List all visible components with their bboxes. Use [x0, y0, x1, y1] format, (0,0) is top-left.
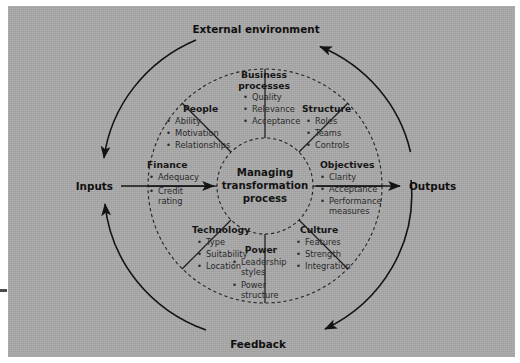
figure-canvas: External environment Feedback Inputs Out… — [0, 0, 520, 363]
bullet-icon: • — [306, 116, 311, 126]
label-outputs: Outputs — [409, 180, 456, 192]
segment-finance[interactable]: Finance • Adequacy • Credit rating — [147, 159, 199, 206]
segment-item-type: Type — [205, 237, 225, 247]
segment-title-business-processes-line1: Business — [241, 69, 287, 80]
bullet-icon: • — [320, 184, 325, 194]
label-inputs: Inputs — [76, 180, 113, 192]
segment-item-performance-cont: measures — [329, 206, 370, 216]
bullet-icon: • — [197, 237, 202, 247]
transformation-process-diagram: External environment Feedback Inputs Out… — [0, 0, 520, 363]
bullet-icon: • — [320, 196, 325, 206]
segment-title-technology: Technology — [192, 224, 250, 235]
segment-item-performance: Performance — [329, 196, 382, 206]
segment-title-business-processes-line2: processes — [238, 80, 290, 91]
hub-label: Managing transformation process — [222, 167, 309, 204]
segment-item-credit-rating-cont: rating — [158, 196, 183, 206]
segment-item-adequacy: Adequacy — [158, 172, 199, 182]
segment-title-culture: Culture — [300, 224, 338, 235]
hub-line-1: Managing — [237, 167, 293, 178]
segment-culture[interactable]: Culture • Features • Strength • Integrat… — [296, 224, 351, 271]
segment-people[interactable]: People • Ability • Motivation • Relation… — [166, 103, 230, 150]
segment-title-objectives: Objectives — [320, 159, 375, 170]
segment-business-processes[interactable]: Business processes • Quality • Relevance… — [238, 69, 300, 126]
segment-item-acceptance: Acceptance — [252, 116, 300, 126]
bullet-icon: • — [232, 280, 237, 290]
segment-item-features: Features — [305, 237, 341, 247]
label-feedback: Feedback — [230, 338, 287, 350]
segment-title-structure: Structure — [302, 103, 351, 114]
segment-item-leadership-styles: Leadership — [241, 257, 287, 267]
bullet-icon: • — [149, 186, 154, 196]
bullet-icon: • — [243, 116, 248, 126]
arc-feedback-to-inputs — [105, 204, 206, 330]
segment-title-power: Power — [245, 244, 278, 255]
bullet-icon: • — [197, 249, 202, 259]
segment-item-integration: Integration — [305, 261, 351, 271]
bullet-icon: • — [166, 116, 171, 126]
bullet-icon: • — [320, 172, 325, 182]
segment-item-motivation: Motivation — [175, 128, 219, 138]
segment-item-clarity: Clarity — [329, 172, 356, 182]
segment-item-leadership-styles-cont: styles — [241, 267, 265, 277]
segment-item-ability: Ability — [175, 116, 201, 126]
segment-item-quality: Quality — [252, 92, 282, 102]
segment-item-relationships: Relationships — [175, 140, 230, 150]
bullet-icon: • — [296, 237, 301, 247]
segment-item-location: Location — [206, 261, 241, 271]
segment-item-acceptance: Acceptance — [329, 184, 377, 194]
segment-item-power-structure-cont: structure — [241, 290, 279, 300]
segment-objectives[interactable]: Objectives • Clarity • Acceptance • Perf… — [320, 159, 382, 216]
bullet-icon: • — [306, 140, 311, 150]
bullet-icon: • — [243, 92, 248, 102]
segment-title-people: People — [183, 103, 218, 114]
bullet-icon: • — [243, 104, 248, 114]
segment-item-strength: Strength — [305, 249, 341, 259]
hub-line-2: transformation — [222, 180, 309, 191]
bullet-icon: • — [197, 261, 202, 271]
bullet-icon: • — [306, 128, 311, 138]
segment-item-suitability: Suitability — [206, 249, 248, 259]
segment-item-credit-rating: Credit — [158, 186, 184, 196]
label-external-environment: External environment — [192, 23, 319, 35]
bullet-icon: • — [166, 140, 171, 150]
segment-title-finance: Finance — [147, 159, 187, 170]
segment-item-power-structure: Power — [241, 280, 267, 290]
segment-item-controls: Controls — [315, 140, 349, 150]
bullet-icon: • — [166, 128, 171, 138]
bullet-icon: • — [296, 261, 301, 271]
segment-structure[interactable]: Structure • Roles • Teams • Controls — [302, 103, 351, 150]
bullet-icon: • — [296, 249, 301, 259]
bullet-icon: • — [149, 172, 154, 182]
hub-line-3: process — [243, 193, 287, 204]
segment-item-roles: Roles — [315, 116, 337, 126]
segment-item-relevance: Relevance — [252, 104, 295, 114]
segment-item-teams: Teams — [314, 128, 341, 138]
